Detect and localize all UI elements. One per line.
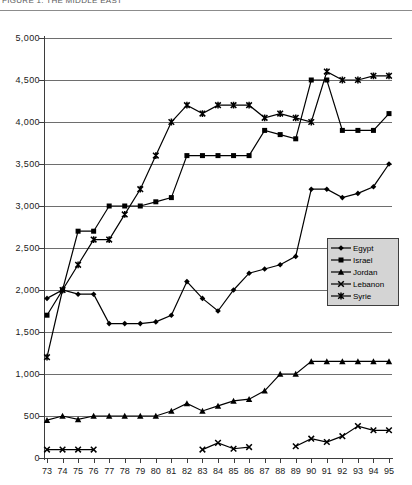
square-marker <box>216 153 221 158</box>
series-jordan <box>44 358 392 423</box>
triangle-marker <box>184 400 190 406</box>
legend-item-label: Israel <box>352 256 373 265</box>
square-marker <box>355 128 360 133</box>
line-chart: FIGURE 1. THE MIDDLE EAST 05001,0001,500… <box>0 0 412 485</box>
square-marker <box>387 111 392 116</box>
square-marker <box>76 229 81 234</box>
square-marker <box>200 153 205 158</box>
asterisk-marker <box>122 211 128 218</box>
legend-item-lebanon[interactable]: Lebanon <box>330 278 396 290</box>
legend-item-syrie[interactable]: Syrie <box>330 290 396 302</box>
asterisk-marker <box>153 152 159 159</box>
series-line <box>47 426 389 450</box>
diamond-marker <box>293 254 299 260</box>
triangle-marker <box>330 266 352 278</box>
series-line <box>47 361 389 420</box>
diamond-marker <box>355 191 361 197</box>
diamond-marker <box>338 245 344 251</box>
square-marker <box>153 199 158 204</box>
cross-x-marker <box>340 433 346 439</box>
diamond-marker <box>122 321 128 327</box>
square-marker <box>231 153 236 158</box>
cross-x-marker <box>200 447 206 453</box>
square-marker <box>45 313 50 318</box>
asterisk-marker <box>169 119 175 126</box>
square-marker <box>293 136 298 141</box>
diamond-marker <box>324 186 330 192</box>
diamond-marker <box>340 195 346 201</box>
diamond-marker <box>91 291 97 297</box>
series-syrie <box>44 68 392 360</box>
series-lebanon <box>44 423 392 452</box>
square-marker <box>262 128 267 133</box>
diamond-marker <box>75 291 81 297</box>
asterisk-marker <box>184 102 190 109</box>
legend-item-label: Lebanon <box>352 280 384 289</box>
square-marker <box>371 128 376 133</box>
asterisk-marker <box>44 354 50 361</box>
triangle-marker <box>59 413 65 419</box>
diamond-marker <box>308 186 314 192</box>
diamond-marker <box>330 242 352 254</box>
square-marker <box>138 204 143 209</box>
square-marker <box>309 78 314 83</box>
square-marker <box>169 195 174 200</box>
triangle-marker <box>168 408 174 414</box>
square-marker <box>330 254 352 266</box>
square-marker <box>339 258 344 263</box>
diamond-marker <box>137 321 143 327</box>
square-marker <box>278 132 283 137</box>
square-marker <box>340 128 345 133</box>
chart-legend: EgyptIsraelJordanLebanonSyrie <box>327 238 399 306</box>
asterisk-marker <box>200 110 206 117</box>
legend-item-label: Syrie <box>352 292 371 301</box>
diamond-marker <box>169 312 175 318</box>
cross-x-marker <box>330 278 352 290</box>
cross-x-marker <box>215 440 221 446</box>
legend-item-label: Jordan <box>352 268 377 277</box>
asterisk-marker <box>137 186 143 193</box>
asterisk-marker <box>324 68 330 75</box>
diamond-marker <box>262 266 268 272</box>
square-marker <box>91 229 96 234</box>
square-marker <box>247 153 252 158</box>
legend-item-jordan[interactable]: Jordan <box>330 266 396 278</box>
legend-item-israel[interactable]: Israel <box>330 254 396 266</box>
legend-item-label: Egypt <box>352 244 373 253</box>
asterisk-marker <box>330 290 352 302</box>
asterisk-marker <box>75 261 81 268</box>
diamond-marker <box>153 319 159 325</box>
diamond-marker <box>44 296 50 302</box>
square-marker <box>122 204 127 209</box>
square-marker <box>107 204 112 209</box>
diamond-marker <box>277 262 283 268</box>
legend-item-egypt[interactable]: Egypt <box>330 242 396 254</box>
diamond-marker <box>106 321 112 327</box>
cross-x-marker <box>293 443 299 449</box>
square-marker <box>184 153 189 158</box>
